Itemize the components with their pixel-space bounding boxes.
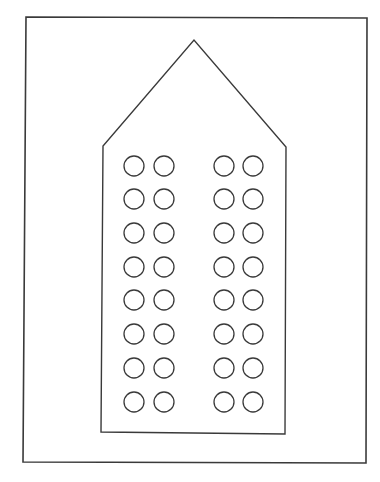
drawing-canvas [0,0,380,482]
house-drawing [0,0,380,482]
background [0,0,380,482]
